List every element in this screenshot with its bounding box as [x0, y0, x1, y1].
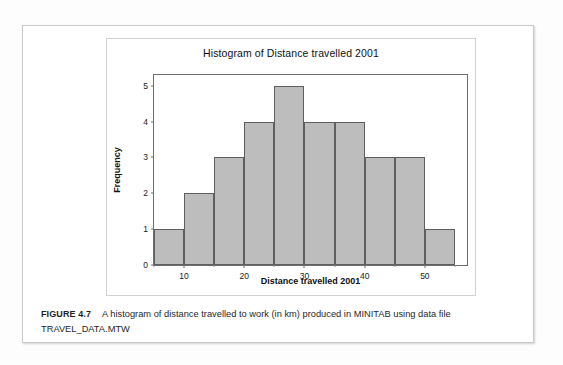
histogram-bar: [184, 193, 214, 265]
histogram-bar: [365, 157, 395, 265]
y-axis-tick-label: 3: [143, 152, 148, 162]
figure-caption-tag: FIGURE 4.7: [41, 309, 91, 319]
x-axis-minor-tick-mark: [334, 265, 335, 267]
histogram-bar: [154, 229, 184, 265]
bars-layer: [154, 75, 467, 265]
y-axis-tick-mark: [151, 229, 154, 230]
y-axis-label: Frequency: [112, 147, 122, 193]
x-axis-minor-tick-mark: [274, 265, 275, 267]
x-axis-minor-tick-mark: [394, 265, 395, 267]
y-axis-tick-mark: [151, 193, 154, 194]
y-axis-tick-mark: [151, 121, 154, 122]
x-axis-tick-mark: [364, 265, 365, 268]
x-axis-minor-tick-mark: [154, 265, 155, 267]
x-axis-tick-mark: [244, 265, 245, 268]
figure-caption: FIGURE 4.7A histogram of distance travel…: [41, 307, 513, 336]
y-axis-tick-mark: [151, 157, 154, 158]
y-axis-tick-label: 0: [143, 260, 148, 270]
histogram-bar: [274, 86, 304, 265]
figure-caption-text: A histogram of distance travelled to wor…: [41, 309, 451, 334]
x-axis-minor-tick-mark: [214, 265, 215, 267]
histogram-bar: [304, 122, 334, 265]
x-axis-tick-mark: [304, 265, 305, 268]
histogram-bar: [214, 157, 244, 265]
figure-panel: Histogram of Distance travelled 2001 Fre…: [22, 25, 534, 343]
x-axis-tick-mark: [424, 265, 425, 268]
x-axis-label: Distance travelled 2001: [153, 276, 468, 286]
y-axis-tick-label: 4: [143, 117, 148, 127]
histogram-bar: [425, 229, 455, 265]
y-axis-tick-label: 2: [143, 188, 148, 198]
histogram-chart: Histogram of Distance travelled 2001 Fre…: [106, 38, 476, 296]
histogram-bar: [244, 122, 274, 265]
page-background: Histogram of Distance travelled 2001 Fre…: [0, 0, 563, 365]
x-axis-tick-mark: [184, 265, 185, 268]
histogram-bar: [395, 157, 425, 265]
chart-title: Histogram of Distance travelled 2001: [107, 47, 475, 59]
y-axis-tick-label: 1: [143, 224, 148, 234]
y-axis-tick-label: 5: [143, 81, 148, 91]
x-axis-minor-tick-mark: [454, 265, 455, 267]
y-axis-tick-mark: [151, 85, 154, 86]
histogram-bar: [335, 122, 365, 265]
plot-area: 012345 1020304050: [153, 74, 468, 266]
